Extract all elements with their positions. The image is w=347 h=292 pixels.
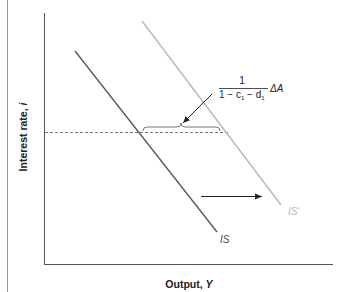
is-curve xyxy=(75,51,217,232)
is-prime-curve xyxy=(142,21,281,205)
multiplier-annotation: 1 1 − c1 − d1 ΔA xyxy=(219,75,284,101)
shift-brace xyxy=(143,123,220,131)
is-label: IS xyxy=(220,234,230,245)
fraction-denominator: 1 − c1 − d1 xyxy=(219,89,265,101)
fraction-numerator: 1 xyxy=(239,75,245,86)
is-prime-label: IS′ xyxy=(288,206,300,217)
is-shift-diagram: 1 1 − c1 − d1 ΔA IS IS′ Output, Y Intere… xyxy=(0,0,347,292)
y-axis-label: Interest rate, i xyxy=(17,101,29,171)
x-axis-label: Output, Y xyxy=(165,278,213,290)
delta-a-label: ΔA xyxy=(269,83,284,94)
